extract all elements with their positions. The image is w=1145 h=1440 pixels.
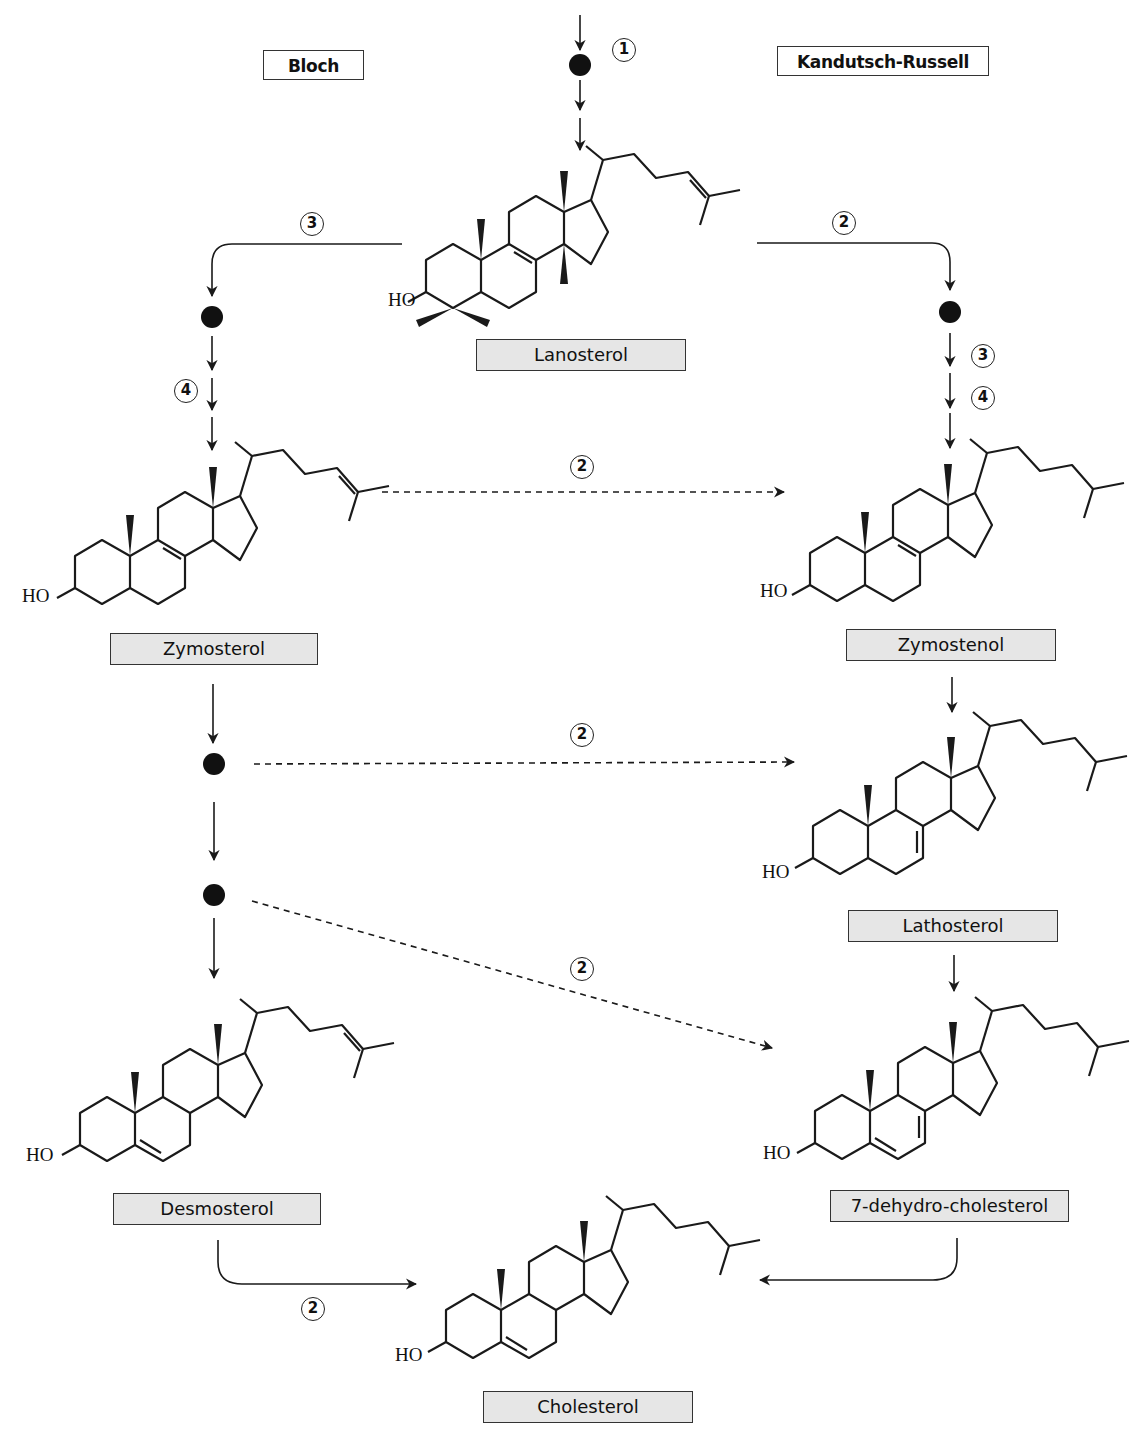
dashed-arrow-intermediate-to-lathosterol xyxy=(254,762,794,764)
step-badge-bloch-3: 3 xyxy=(300,212,324,236)
top-entry-arrows xyxy=(569,15,591,150)
compound-label-zymostenol: Zymostenol xyxy=(846,629,1056,661)
lathosterol-structure xyxy=(795,712,1127,874)
bloch-branch-arrow xyxy=(201,244,402,450)
arrow-dehydrocholesterol-to-cholesterol xyxy=(760,1238,957,1280)
hydroxyl-label-zymosterol: HO xyxy=(22,586,49,605)
hydroxyl-label-cholesterol: HO xyxy=(395,1345,422,1364)
kandutsch-russell-branch-arrow xyxy=(757,243,961,448)
dehydrocholesterol-structure xyxy=(797,997,1129,1159)
step-badge-kr-4: 4 xyxy=(971,386,995,410)
step-badge-bloch-4: 4 xyxy=(174,379,198,403)
hydroxyl-label-zymostenol: HO xyxy=(760,581,787,600)
lanosterol-structure xyxy=(408,146,740,327)
step-badge-desmosterol-to-cholesterol: 2 xyxy=(301,1297,325,1321)
intermediate-dot xyxy=(203,884,225,906)
step-badge-cross-intermediate-1: 2 xyxy=(570,723,594,747)
hydroxyl-label-desmosterol: HO xyxy=(26,1145,53,1164)
hydroxyl-label-lanosterol: HO xyxy=(388,290,415,309)
compound-label-desmosterol: Desmosterol xyxy=(113,1193,321,1225)
desmosterol-structure xyxy=(62,999,394,1161)
compound-label-cholesterol: Cholesterol xyxy=(483,1391,693,1423)
arrow-desmosterol-to-cholesterol xyxy=(218,1240,416,1284)
step-badge-kr-3: 3 xyxy=(971,344,995,368)
step-badge-1: 1 xyxy=(612,38,636,62)
pathway-label-bloch: Bloch xyxy=(263,50,364,80)
compound-label-lanosterol: Lanosterol xyxy=(476,339,686,371)
intermediate-dot xyxy=(569,54,591,76)
zymostenol-structure xyxy=(792,439,1124,601)
bloch-lower-chain xyxy=(203,684,225,978)
intermediate-dot xyxy=(939,301,961,323)
compound-label-zymosterol: Zymosterol xyxy=(110,633,318,665)
pathway-label-kandutsch-russell: Kandutsch-Russell xyxy=(777,46,989,76)
compound-label-lathosterol: Lathosterol xyxy=(848,910,1058,942)
intermediate-dot xyxy=(203,753,225,775)
dashed-arrow-intermediate-to-dehydrocholesterol xyxy=(252,901,772,1048)
hydroxyl-label-dehydrocholesterol: HO xyxy=(763,1143,790,1162)
step-badge-kr-2: 2 xyxy=(832,211,856,235)
step-badge-cross-zymosterol: 2 xyxy=(570,455,594,479)
compound-label-dehydrocholesterol: 7-dehydro-cholesterol xyxy=(830,1190,1069,1222)
step-badge-cross-intermediate-2: 2 xyxy=(570,957,594,981)
cholesterol-structure xyxy=(428,1196,760,1358)
zymosterol-structure xyxy=(57,442,389,604)
hydroxyl-label-lathosterol: HO xyxy=(762,862,789,881)
intermediate-dot xyxy=(201,306,223,328)
